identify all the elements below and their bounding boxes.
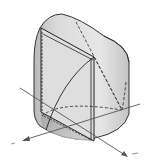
y-axis-arrowhead [22,136,30,141]
x-axis-arrowhead [121,151,128,157]
solid-diagram [0,0,146,163]
x-axis-tick-label [11,143,15,144]
y-axis-tick-label [132,153,138,154]
